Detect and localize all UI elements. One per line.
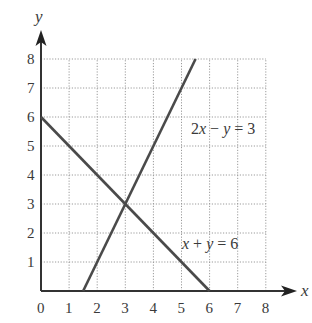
x-tick-label: 6 xyxy=(206,300,214,316)
x-axis-title: x xyxy=(300,281,309,300)
axes xyxy=(36,30,298,297)
y-tick-label: 6 xyxy=(27,109,35,125)
y-tick-label: 4 xyxy=(27,167,35,183)
y-tick-label: 1 xyxy=(27,254,35,270)
x-tick-label: 0 xyxy=(37,300,45,316)
x-tick-label: 4 xyxy=(149,300,157,316)
tick-labels: 01234567812345678 xyxy=(27,51,269,316)
y-tick-label: 5 xyxy=(27,138,35,154)
linear-equations-graph: 01234567812345678 y x 2x − y = 3 x + y =… xyxy=(0,0,312,323)
x-tick-label: 8 xyxy=(262,300,270,316)
y-tick-label: 2 xyxy=(27,225,35,241)
equation-label-2x-minus-y: 2x − y = 3 xyxy=(191,120,255,138)
equation-label-x-plus-y: x + y = 6 xyxy=(181,235,238,253)
y-tick-label: 3 xyxy=(27,196,35,212)
x-tick-label: 5 xyxy=(178,300,186,316)
y-axis-title: y xyxy=(33,7,43,26)
grid-lines xyxy=(41,59,266,291)
x-tick-label: 7 xyxy=(234,300,242,316)
x-tick-label: 1 xyxy=(65,300,73,316)
x-tick-label: 3 xyxy=(121,300,129,316)
y-tick-label: 8 xyxy=(27,51,35,67)
x-tick-label: 2 xyxy=(93,300,101,316)
y-tick-label: 7 xyxy=(27,80,35,96)
